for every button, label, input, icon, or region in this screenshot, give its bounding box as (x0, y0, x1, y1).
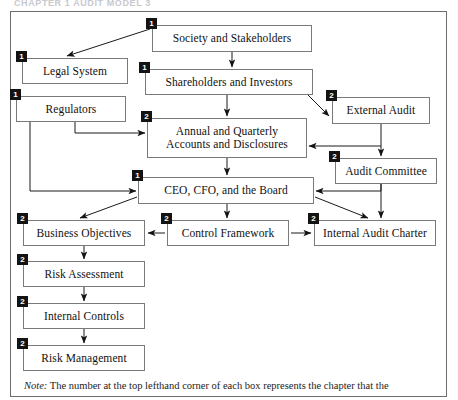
chapter-badge: 1 (10, 89, 21, 100)
chapter-badge: 1 (146, 18, 157, 29)
node-label: Audit Committee (342, 165, 430, 178)
node-risk-assessment: 2Risk Assessment (23, 261, 145, 287)
note-body: The number at the top lefthand corner of… (47, 380, 388, 391)
chapter-badge: 2 (17, 338, 28, 349)
node-legal: 1Legal System (22, 58, 128, 84)
chapter-badge: 1 (132, 170, 143, 181)
chapter-badge: 2 (17, 296, 28, 307)
node-risk-management: 2Risk Management (23, 345, 145, 371)
node-label: Risk Assessment (41, 268, 126, 281)
node-label: Shareholders and Investors (162, 76, 295, 89)
node-label: Control Framework (179, 227, 278, 240)
node-label: Annual and QuarterlyAccounts and Disclos… (163, 125, 291, 151)
chapter-badge: 2 (17, 213, 28, 224)
node-business-objectives: 2Business Objectives (23, 220, 145, 246)
node-annual-accounts: 2Annual and QuarterlyAccounts and Disclo… (147, 118, 307, 158)
figure-note: Note: The number at the top lefthand cor… (24, 379, 436, 392)
node-shareholders: 1Shareholders and Investors (145, 69, 313, 95)
chapter-badge: 2 (161, 213, 172, 224)
chapter-badge: 2 (326, 90, 337, 101)
chapter-badge: 2 (329, 151, 340, 162)
node-ceo-cfo-board: 1CEO, CFO, and the Board (138, 177, 314, 204)
node-internal-audit-charter: 2Internal Audit Charter (314, 220, 436, 246)
node-label: Regulators (43, 103, 100, 116)
node-audit-committee: 2Audit Committee (335, 158, 437, 184)
chapter-badge: 2 (141, 111, 152, 122)
node-regulators: 1Regulators (16, 96, 126, 122)
node-label: Internal Controls (41, 310, 127, 323)
node-label: Business Objectives (34, 227, 135, 240)
node-label: Risk Management (38, 352, 130, 365)
chapter-badge: 1 (139, 62, 150, 73)
chapter-badge: 1 (16, 51, 27, 62)
note-lead: Note: (24, 380, 47, 391)
running-header: CHAPTER 1 AUDIT MODEL 3 (14, 0, 314, 8)
chapter-badge: 2 (308, 213, 319, 224)
node-label: Legal System (40, 65, 110, 78)
chapter-badge: 2 (17, 254, 28, 265)
node-label: Society and Stakeholders (170, 32, 295, 45)
node-label: CEO, CFO, and the Board (161, 184, 291, 197)
node-label: External Audit (344, 104, 419, 117)
node-label: Internal Audit Charter (320, 227, 430, 240)
node-internal-controls: 2Internal Controls (23, 303, 145, 329)
node-society: 1Society and Stakeholders (152, 25, 312, 52)
node-external-audit: 2External Audit (332, 97, 430, 124)
node-control-framework: 2Control Framework (167, 220, 289, 246)
